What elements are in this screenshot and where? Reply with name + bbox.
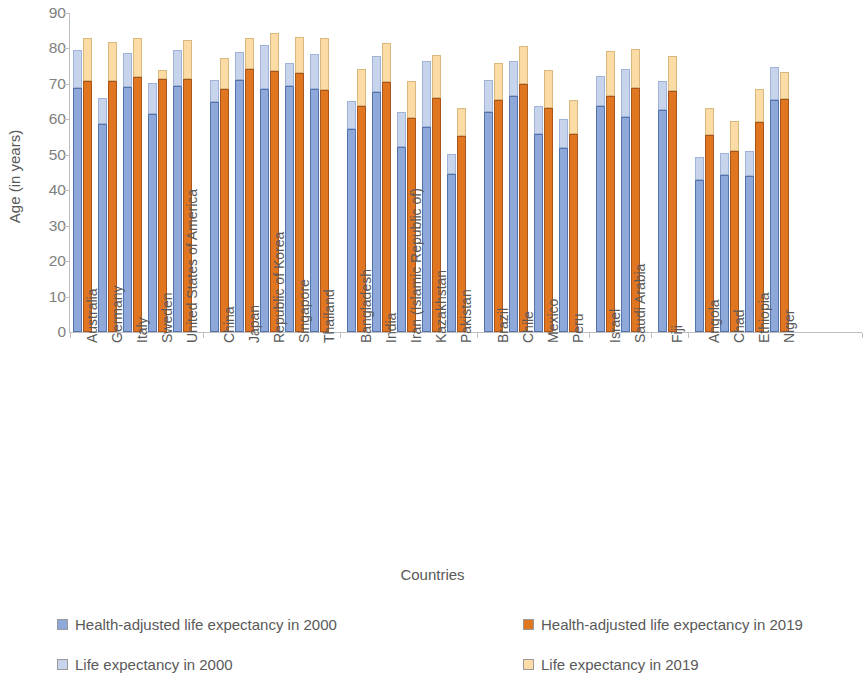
bar-2000[interactable] bbox=[770, 13, 779, 332]
y-tick-label-40: 40 bbox=[20, 182, 66, 198]
bar-segment-le-2019 bbox=[108, 42, 117, 80]
country-column bbox=[558, 13, 583, 332]
bar-2019[interactable] bbox=[544, 13, 553, 332]
country-column bbox=[72, 13, 97, 332]
bar-2019[interactable] bbox=[730, 13, 739, 332]
legend-swatch-icon bbox=[57, 659, 68, 670]
country-column bbox=[483, 13, 508, 332]
bar-2019[interactable] bbox=[668, 13, 677, 332]
bar-segment-le-2019 bbox=[382, 43, 391, 82]
x-axis-country-label: India bbox=[384, 313, 398, 343]
bar-2000[interactable] bbox=[621, 13, 630, 332]
country-column bbox=[694, 13, 719, 332]
bar-2019[interactable] bbox=[220, 13, 229, 332]
x-axis-country-label: Chile bbox=[521, 311, 535, 343]
bar-2019[interactable] bbox=[382, 13, 391, 332]
bar-2000[interactable] bbox=[484, 13, 493, 332]
bar-2019[interactable] bbox=[320, 13, 329, 332]
bar-segment-le-2000 bbox=[148, 83, 157, 114]
bar-segment-le-2000 bbox=[372, 56, 381, 92]
bar-segment-le-2019 bbox=[631, 49, 640, 88]
bar-segment-le-2019 bbox=[494, 63, 503, 100]
bar-2000[interactable] bbox=[658, 13, 667, 332]
x-axis-country-label: United States of America bbox=[185, 189, 199, 343]
bar-2019[interactable] bbox=[83, 13, 92, 332]
bar-2019[interactable] bbox=[705, 13, 714, 332]
bar-2000[interactable] bbox=[123, 13, 132, 332]
legend-item[interactable]: Life expectancy in 2019 bbox=[523, 656, 699, 673]
country-column bbox=[744, 13, 769, 332]
bar-segment-hale-2000 bbox=[210, 102, 219, 332]
bar-segment-le-2000 bbox=[235, 52, 244, 80]
bar-segment-le-2000 bbox=[447, 154, 456, 174]
bar-2000[interactable] bbox=[235, 13, 244, 332]
bar-segment-hale-2000 bbox=[695, 180, 704, 332]
bar-2000[interactable] bbox=[210, 13, 219, 332]
bar-2000[interactable] bbox=[534, 13, 543, 332]
bar-segment-hale-2000 bbox=[484, 112, 493, 332]
bar-segment-hale-2000 bbox=[534, 134, 543, 332]
x-axis-country-label: Pakistan bbox=[459, 289, 473, 343]
bar-2000[interactable] bbox=[260, 13, 269, 332]
bar-segment-le-2000 bbox=[285, 63, 294, 86]
bar-2000[interactable] bbox=[509, 13, 518, 332]
bar-segment-le-2000 bbox=[173, 50, 182, 86]
bar-segment-le-2000 bbox=[621, 69, 630, 116]
x-axis-country-label: Angola bbox=[707, 299, 721, 343]
x-group-tick bbox=[340, 333, 341, 338]
bar-segment-le-2000 bbox=[73, 50, 82, 88]
bar-2000[interactable] bbox=[148, 13, 157, 332]
bar-2019[interactable] bbox=[569, 13, 578, 332]
bar-2019[interactable] bbox=[519, 13, 528, 332]
bar-segment-hale-2000 bbox=[397, 147, 406, 332]
bar-segment-le-2019 bbox=[245, 38, 254, 70]
bar-2019[interactable] bbox=[245, 13, 254, 332]
country-column bbox=[657, 13, 682, 332]
country-column bbox=[122, 13, 147, 332]
bar-2019[interactable] bbox=[133, 13, 142, 332]
bar-2019[interactable] bbox=[158, 13, 167, 332]
bar-segment-hale-2019 bbox=[382, 82, 391, 332]
bar-2019[interactable] bbox=[780, 13, 789, 332]
bar-segment-hale-2000 bbox=[509, 96, 518, 332]
country-column bbox=[309, 13, 334, 332]
bar-2000[interactable] bbox=[173, 13, 182, 332]
bar-segment-le-2000 bbox=[210, 80, 219, 101]
bar-2000[interactable] bbox=[73, 13, 82, 332]
legend-item[interactable]: Health-adjusted life expectancy in 2000 bbox=[57, 616, 337, 633]
y-tick-label-80: 80 bbox=[20, 41, 66, 57]
bar-segment-hale-2019 bbox=[494, 100, 503, 332]
legend-item[interactable]: Life expectancy in 2000 bbox=[57, 656, 233, 673]
bar-2000[interactable] bbox=[397, 13, 406, 332]
bar-2000[interactable] bbox=[596, 13, 605, 332]
bar-2000[interactable] bbox=[720, 13, 729, 332]
x-group-tick bbox=[589, 333, 590, 338]
bar-segment-hale-2019 bbox=[569, 134, 578, 332]
bar-2000[interactable] bbox=[695, 13, 704, 332]
bar-segment-hale-2019 bbox=[730, 151, 739, 332]
bar-2019[interactable] bbox=[457, 13, 466, 332]
x-axis-country-label: Mexico bbox=[546, 299, 560, 343]
legend-item[interactable]: Health-adjusted life expectancy in 2019 bbox=[523, 616, 803, 633]
bar-2019[interactable] bbox=[755, 13, 764, 332]
bar-2000[interactable] bbox=[559, 13, 568, 332]
x-axis-country-label: Israel bbox=[608, 309, 622, 343]
country-column bbox=[508, 13, 533, 332]
bar-segment-le-2019 bbox=[158, 70, 167, 80]
bar-segment-le-2000 bbox=[422, 61, 431, 127]
bar-2019[interactable] bbox=[494, 13, 503, 332]
bar-2000[interactable] bbox=[98, 13, 107, 332]
y-tick-label-0: 0 bbox=[20, 324, 66, 340]
bar-2019[interactable] bbox=[606, 13, 615, 332]
bar-2019[interactable] bbox=[108, 13, 117, 332]
bar-2000[interactable] bbox=[745, 13, 754, 332]
bar-segment-le-2000 bbox=[596, 76, 605, 106]
bar-segment-hale-2000 bbox=[596, 106, 605, 332]
x-end-tick-1 bbox=[862, 333, 863, 338]
bar-2000[interactable] bbox=[347, 13, 356, 332]
bar-segment-le-2019 bbox=[133, 38, 142, 77]
chart-legend: Health-adjusted life expectancy in 2000L… bbox=[0, 612, 865, 682]
x-axis-country-label: Germany bbox=[110, 285, 124, 343]
x-axis-country-label: Chad bbox=[732, 310, 746, 343]
bar-segment-le-2019 bbox=[83, 38, 92, 81]
